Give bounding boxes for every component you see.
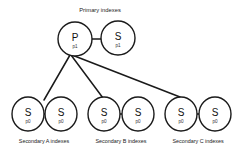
node-secondary-b2[interactable]: S p0 — [122, 97, 154, 131]
node-sublabel: p1 — [115, 43, 121, 48]
node-sublabel: p0 — [178, 119, 184, 124]
node-letter: S — [135, 107, 142, 118]
node-letter: S — [101, 107, 108, 118]
node-sublabel: p1 — [72, 44, 78, 49]
caption-secondary-c: Secondary C indexes — [172, 138, 224, 144]
node-letter: S — [212, 107, 219, 118]
node-letter: S — [58, 107, 65, 118]
caption-secondary-b: Secondary B indexes — [96, 138, 147, 144]
node-sublabel: p0 — [101, 119, 107, 124]
node-secondary-c2[interactable]: S p0 — [199, 97, 231, 131]
index-topology-diagram: P p1 S p1 S p0 S p0 S p0 — [0, 0, 250, 158]
node-secondary-a1[interactable]: S p0 — [12, 97, 44, 131]
diagram-title: Primary indexes — [79, 7, 121, 13]
node-primary-p[interactable]: P p1 — [58, 22, 92, 56]
node-letter: S — [115, 31, 122, 42]
caption-secondary-a: Secondary A indexes — [19, 138, 70, 144]
node-secondary-c1[interactable]: S p0 — [165, 97, 197, 131]
node-secondary-b1[interactable]: S p0 — [88, 97, 120, 131]
node-sublabel: p0 — [25, 119, 31, 124]
diagram-canvas: P p1 S p1 S p0 S p0 S p0 — [0, 0, 250, 158]
node-letter: S — [25, 107, 32, 118]
edge-primary-to-secondary-a — [44, 55, 70, 100]
edge-primary-to-secondary-c — [72, 55, 180, 97]
node-secondary-a2[interactable]: S p0 — [45, 97, 77, 131]
node-letter: S — [178, 107, 185, 118]
node-sublabel: p0 — [212, 119, 218, 124]
node-secondary-top[interactable]: S p1 — [101, 21, 135, 55]
node-sublabel: p0 — [135, 119, 141, 124]
node-letter: P — [72, 32, 79, 43]
node-sublabel: p0 — [58, 119, 64, 124]
